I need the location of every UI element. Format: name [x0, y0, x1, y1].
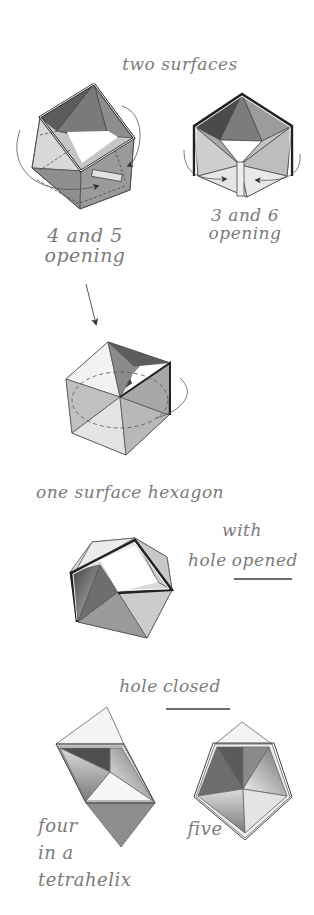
figure-tetrahelix-four — [56, 707, 155, 847]
diagram-drawings — [0, 0, 314, 915]
figure-five-ring — [194, 722, 292, 840]
arrow-down — [86, 284, 96, 324]
figure-hexagon-hole-opened — [70, 538, 172, 638]
figure-collapsing-cube — [66, 342, 187, 455]
figure-4-and-5-opening — [17, 84, 140, 209]
figure-3-and-6-opening — [184, 94, 300, 197]
